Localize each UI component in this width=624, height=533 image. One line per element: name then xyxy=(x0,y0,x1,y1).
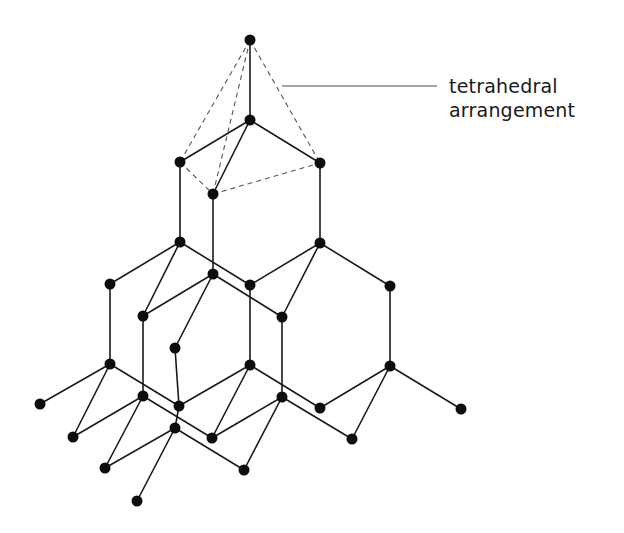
bond-line xyxy=(320,243,390,286)
bond-line xyxy=(282,397,352,439)
atom-node xyxy=(245,35,256,46)
atom-node xyxy=(208,269,219,280)
atom-node xyxy=(456,404,467,415)
tetrahedral-edge xyxy=(180,40,250,162)
annotation-line-2: arrangement xyxy=(449,98,575,122)
atom-node xyxy=(105,279,116,290)
atom-node xyxy=(175,157,186,168)
atom-node xyxy=(170,423,181,434)
atom-node xyxy=(170,343,181,354)
tetrahedral-edge xyxy=(213,40,250,194)
covalent-bonds xyxy=(40,40,461,501)
atom-node xyxy=(245,115,256,126)
atom-node xyxy=(385,361,396,372)
atom-node xyxy=(385,281,396,292)
atom-node xyxy=(68,432,79,443)
atom-node xyxy=(138,311,149,322)
atom-node xyxy=(35,399,46,410)
atom-node xyxy=(315,403,326,414)
atom-node xyxy=(132,496,143,507)
atom-node xyxy=(175,237,186,248)
tetrahedral-edge xyxy=(250,40,320,163)
atom-node xyxy=(245,280,256,291)
bond-line xyxy=(250,120,320,163)
atom-node xyxy=(245,360,256,371)
bond-line xyxy=(390,366,461,409)
atom-node xyxy=(105,359,116,370)
annotation-line-1: tetrahedral xyxy=(449,74,575,98)
atom-node xyxy=(100,463,111,474)
atom-node xyxy=(277,312,288,323)
atom-node xyxy=(315,238,326,249)
atom-node xyxy=(138,391,149,402)
atom-node xyxy=(239,465,250,476)
tetrahedral-edge xyxy=(180,162,213,194)
atom-node xyxy=(208,189,219,200)
atom-node xyxy=(277,392,288,403)
annotation-label: tetrahedral arrangement xyxy=(449,74,575,122)
atom-node xyxy=(347,434,358,445)
atom-node xyxy=(174,401,185,412)
bond-line xyxy=(175,348,179,406)
atom-node xyxy=(315,158,326,169)
tetrahedral-edge xyxy=(213,163,320,194)
atom-node xyxy=(207,433,218,444)
